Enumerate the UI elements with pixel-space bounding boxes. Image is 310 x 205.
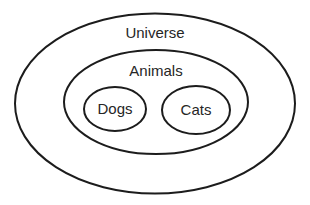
venn-diagram: Universe Animals Dogs Cats bbox=[0, 0, 310, 205]
set-dogs: Dogs bbox=[84, 87, 146, 131]
animals-label: Animals bbox=[129, 62, 182, 79]
cats-label: Cats bbox=[181, 101, 212, 118]
set-animals: Animals bbox=[64, 50, 248, 154]
set-cats: Cats bbox=[162, 86, 230, 134]
dogs-label: Dogs bbox=[97, 100, 132, 117]
universe-label: Universe bbox=[125, 24, 184, 41]
universe-ellipse bbox=[15, 14, 295, 194]
set-universe: Universe bbox=[15, 14, 295, 194]
